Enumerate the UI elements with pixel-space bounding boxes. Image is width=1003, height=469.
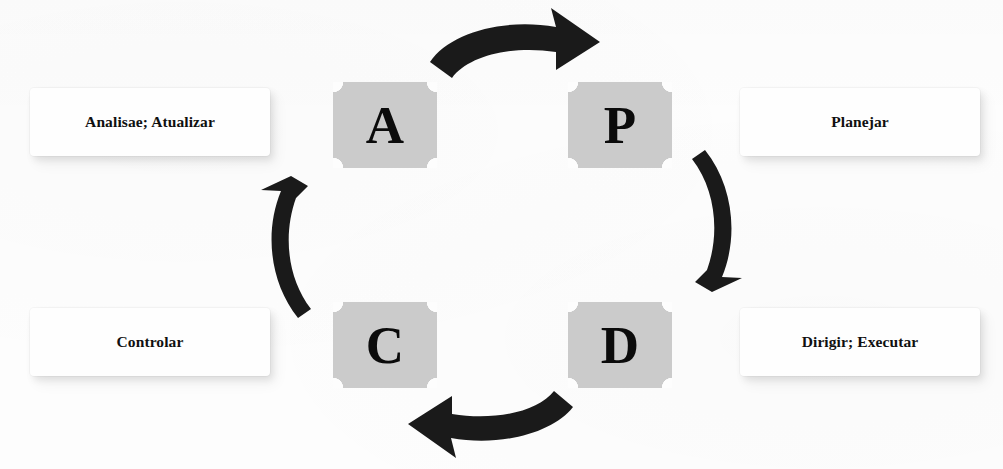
label-text-dirigir: Dirigir; Executar [802,333,919,351]
tile-letter-p: P [604,99,636,152]
tile-letter-d: D [601,319,639,372]
label-plaque-planejar: Planejar [740,88,980,156]
label-plaque-controlar: Controlar [30,308,270,376]
tile-letter-c: C [366,319,404,372]
cycle-tile-a: A [333,82,437,168]
pdca-cycle-diagram: Analisae; Atualizar Planejar Controlar D… [0,0,1003,469]
arrow-d-to-c-icon [408,391,573,458]
label-text-analisar: Analisae; Atualizar [85,113,215,131]
arrow-a-to-p-icon [430,8,600,78]
cycle-tile-p: P [568,82,672,168]
label-plaque-dirigir: Dirigir; Executar [740,308,980,376]
cycle-arrows-group [0,0,1003,469]
label-text-controlar: Controlar [117,333,184,351]
label-text-planejar: Planejar [831,113,889,131]
arrow-p-to-d-icon [692,150,742,292]
cycle-tile-c: C [333,302,437,388]
cycle-tile-d: D [568,302,672,388]
label-plaque-analisar: Analisae; Atualizar [30,88,270,156]
tile-letter-a: A [366,99,404,152]
arrow-c-to-a-icon [261,176,311,318]
